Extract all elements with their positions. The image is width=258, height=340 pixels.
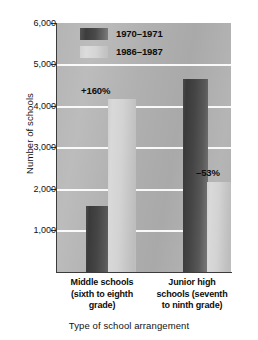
- data-label-junior-high-change: –53%: [196, 167, 220, 178]
- legend-label-1970-1971: 1970–1971: [116, 28, 163, 39]
- x-category-middle-line-2: (sixth to eighth: [56, 289, 148, 301]
- x-category-junior-line-1: Junior high: [146, 277, 238, 289]
- legend-label-1986-1987: 1986–1987: [116, 46, 163, 57]
- y-tick-label-5000: 5,000: [14, 60, 56, 69]
- x-axis-line: [56, 272, 232, 273]
- x-category-junior-line-3: to ninth grade): [146, 300, 238, 312]
- y-tick-label-4000: 4,000: [14, 102, 56, 111]
- legend-swatch-light-icon: [80, 46, 108, 58]
- gridline-5000: [57, 64, 231, 66]
- x-category-middle-line-1: Middle schools: [56, 277, 148, 289]
- data-label-middle-schools-change: +160%: [81, 85, 110, 96]
- y-tick-label-3000: 3,000: [14, 143, 56, 152]
- x-category-label-junior-high: Junior high schools (seventh to ninth gr…: [146, 277, 238, 312]
- bar-middle-schools-1986-1987: [108, 99, 136, 272]
- x-category-label-middle-schools: Middle schools (sixth to eighth grade): [56, 277, 148, 312]
- y-tick-label-1000: 1,000: [14, 226, 56, 235]
- plot-area: [57, 23, 231, 272]
- y-tick-label-6000: 6,000: [14, 19, 56, 28]
- y-tick-label-2000: 2,000: [14, 185, 56, 194]
- x-category-junior-line-2: schools (seventh: [146, 289, 238, 301]
- x-category-middle-line-3: grade): [56, 300, 148, 312]
- legend-swatch-dark-icon: [80, 28, 108, 40]
- x-axis-title: Type of school arrangement: [0, 320, 258, 331]
- bar-chart-figure: Number of schools 6,000 5,000 4,000 3,00…: [0, 0, 258, 340]
- bar-junior-high-1986-1987: [207, 182, 231, 272]
